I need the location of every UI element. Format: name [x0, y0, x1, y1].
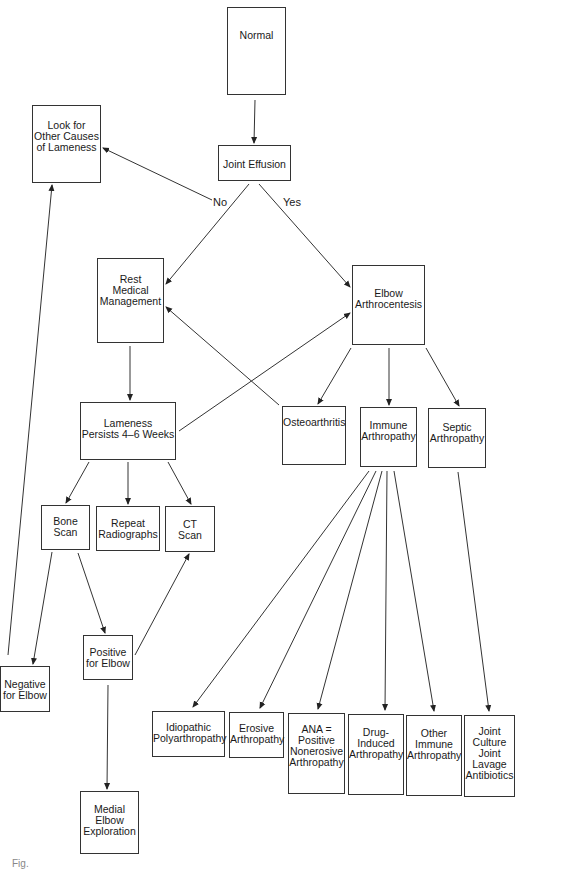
node-label: Elbow Arthrocentesis — [353, 288, 424, 310]
node-label: Idiopathic Polyarthropathy — [153, 722, 224, 744]
node-normal: Normal — [227, 7, 286, 95]
node-label: CT Scan — [166, 519, 214, 541]
node-label: Immune Arthropathy — [361, 420, 416, 442]
node-label: Rest Medical Management — [98, 274, 163, 307]
arrow-normal-to-joint_effusion — [254, 100, 255, 143]
arrow-septic-to-joint_culture — [458, 472, 489, 711]
node-label: Septic Arthropathy — [429, 422, 485, 444]
node-label: Joint Effusion — [219, 159, 290, 170]
node-label: Normal — [228, 30, 285, 41]
node-medial: Medial Elbow Exploration — [80, 791, 139, 854]
node-label: Repeat Radiographs — [97, 518, 159, 540]
node-septic: Septic Arthropathy — [428, 408, 486, 468]
node-label: Bone Scan — [42, 516, 89, 538]
arrow-joint_effusion-to-look_other — [103, 148, 212, 200]
node-idiopathic: Idiopathic Polyarthropathy — [152, 711, 225, 757]
arrow-joint_effusion-to-arthrocentesis — [259, 184, 350, 287]
arrow-negative-to-look_other — [8, 185, 52, 655]
arrow-immune-to-ana — [318, 471, 382, 709]
node-label: Erosive Arthropathy — [230, 723, 283, 745]
edge-label-yes: Yes — [283, 196, 301, 208]
arrow-bone_scan-to-positive — [78, 553, 105, 633]
node-label: Lameness Persists 4–6 Weeks — [81, 418, 175, 440]
node-rest: Rest Medical Management — [97, 258, 164, 343]
node-immune: Immune Arthropathy — [360, 407, 417, 467]
figure-caption: Fig. — [12, 858, 29, 869]
edge-label-no: No — [213, 196, 227, 208]
node-other-immune: Other Immune Arthropathy — [406, 715, 462, 796]
node-joint-culture: Joint Culture Joint Lavage Antibiotics — [464, 715, 515, 797]
node-repeat-rads: Repeat Radiographs — [96, 506, 160, 551]
node-ct-scan: CT Scan — [165, 506, 215, 552]
arrow-arthrocentesis-to-osteoarthritis — [318, 348, 351, 404]
node-label: Negative for Elbow — [1, 679, 49, 701]
node-lameness-persists: Lameness Persists 4–6 Weeks — [80, 402, 176, 460]
node-label: Look for Other Causes of Lameness — [33, 120, 100, 153]
node-bone-scan: Bone Scan — [41, 505, 90, 550]
arrow-lameness_persists-to-ct_scan — [168, 462, 191, 504]
node-negative: Negative for Elbow — [0, 666, 50, 712]
node-ana: ANA = Positive Nonerosive Arthropathy — [288, 713, 345, 794]
node-erosive: Erosive Arthropathy — [229, 712, 284, 758]
arrow-osteoarthritis-to-rest — [166, 307, 279, 405]
node-drug: Drug- Induced Arthropathy — [348, 714, 404, 795]
node-joint-effusion: Joint Effusion — [218, 145, 291, 181]
node-label: ANA = Positive Nonerosive Arthropathy — [289, 724, 344, 768]
arrow-positive-to-ct_scan — [135, 554, 189, 655]
node-label: Joint Culture Joint Lavage Antibiotics — [465, 726, 514, 781]
arrow-arthrocentesis-to-septic — [426, 348, 459, 406]
node-label: Drug- Induced Arthropathy — [349, 727, 403, 760]
arrow-immune-to-idiopathic — [193, 471, 369, 707]
arrow-immune-to-erosive — [260, 471, 376, 708]
arrow-lameness_persists-to-bone_scan — [66, 462, 89, 503]
node-label: Medial Elbow Exploration — [81, 804, 138, 837]
arrow-joint_effusion-to-rest — [166, 184, 249, 284]
arrow-immune-to-other_immune — [394, 471, 434, 711]
node-label: Positive for Elbow — [84, 647, 132, 669]
node-arthrocentesis: Elbow Arthrocentesis — [352, 265, 425, 345]
node-look-other: Look for Other Causes of Lameness — [32, 105, 101, 183]
arrow-positive-to-medial — [107, 685, 108, 789]
arrow-bone_scan-to-negative — [33, 552, 52, 664]
node-osteoarthritis: Osteoarthritis — [282, 406, 346, 465]
node-label: Osteoarthritis — [283, 417, 345, 428]
node-label: Other Immune Arthropathy — [407, 728, 461, 761]
node-positive: Positive for Elbow — [83, 635, 133, 680]
arrow-immune-to-drug — [385, 471, 387, 710]
